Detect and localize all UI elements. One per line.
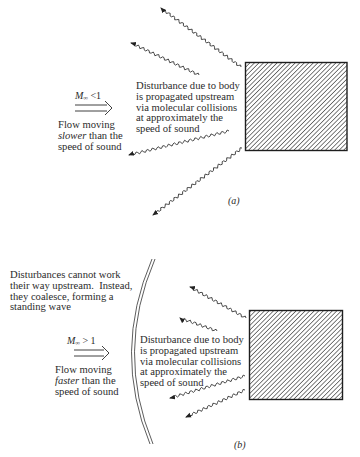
panel-label-b: (b): [234, 439, 246, 450]
panel-label-a: (a): [228, 195, 240, 206]
mach-label-b: M∞ > 1: [67, 335, 96, 346]
flow-text-line: than the: [79, 375, 115, 386]
flow-description-b: Flow moving faster than the speed of sou…: [55, 365, 119, 397]
disturbance-description-a: Disturbance due to body is propagated up…: [136, 81, 240, 135]
mach-relation: > 1: [82, 335, 95, 346]
flow-arrow-b-icon: [74, 346, 109, 360]
text-line: at approximately the: [140, 366, 227, 377]
text-line: Disturbances cannot work: [10, 269, 121, 280]
flow-text-emphasis: slower: [58, 130, 86, 141]
text-line: standing wave: [10, 301, 71, 312]
flow-arrow-a-icon: [75, 101, 112, 115]
text-line: Disturbance due to body: [136, 80, 240, 91]
text-line: via molecular collisions: [136, 102, 237, 113]
flow-text-line: than the: [86, 130, 122, 141]
standing-wave-description: Disturbances cannot work their way upstr…: [10, 270, 132, 313]
text-line: via molecular collisions: [140, 356, 241, 367]
flow-text-line: Flow moving: [58, 119, 115, 130]
flow-text-emphasis: faster: [55, 375, 79, 386]
text-line: speed of sound: [140, 377, 204, 388]
mach-subscript: ∞: [75, 339, 80, 346]
text-line: Disturbance due to body: [140, 334, 244, 345]
flow-text-line: speed of sound: [55, 386, 119, 397]
flow-text-line: speed of sound: [58, 141, 122, 152]
body-block-b: [250, 311, 343, 400]
text-line: at approximately the: [136, 112, 223, 123]
text-line: is propagated upstream: [140, 345, 238, 356]
disturbance-description-b: Disturbance due to body is propagated up…: [140, 335, 244, 389]
text-line: their way upstream. Instead,: [10, 280, 132, 291]
flow-description-a: Flow moving slower than the speed of sou…: [58, 120, 123, 152]
flow-text-line: Flow moving: [55, 364, 112, 375]
text-line: is propagated upstream: [136, 91, 234, 102]
text-line: they coalesce, forming a: [10, 291, 114, 302]
text-line: speed of sound: [136, 123, 200, 134]
mach-label-a: M∞ <1: [75, 90, 101, 101]
mach-relation: <1: [90, 90, 101, 101]
mach-subscript: ∞: [83, 94, 88, 101]
body-block-a: [246, 63, 348, 151]
